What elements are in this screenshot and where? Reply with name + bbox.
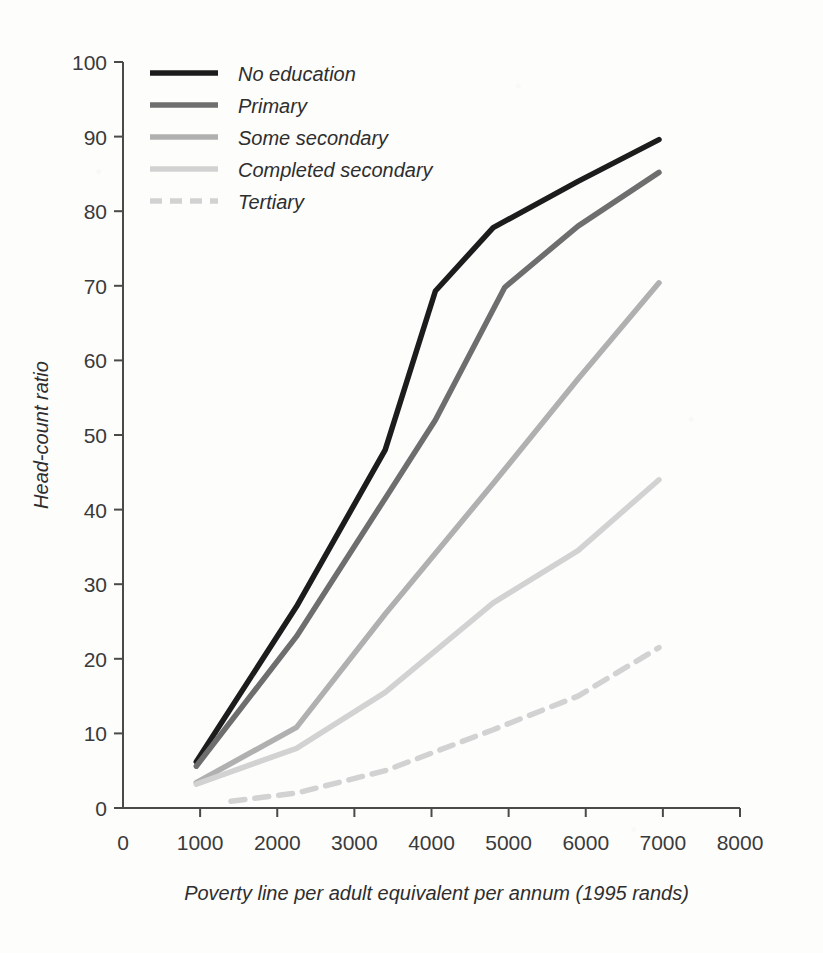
series-line-1 [196,172,659,766]
x-tick-label: 7000 [640,831,687,854]
series-line-4 [231,648,659,802]
y-tick-label: 80 [84,200,107,223]
legend-label-3: Completed secondary [238,159,434,181]
y-tick-label: 60 [84,349,107,372]
y-tick-label: 10 [84,722,107,745]
legend-label-1: Primary [238,95,308,117]
x-tick-label: 5000 [485,831,532,854]
x-tick-label: 2000 [254,831,301,854]
y-tick-label: 0 [95,797,107,820]
x-tick-label: 0 [117,831,129,854]
y-tick-label: 40 [84,499,107,522]
chart-legend: No educationPrimarySome secondaryComplet… [150,63,434,213]
legend-label-4: Tertiary [238,191,305,213]
legend-label-2: Some secondary [238,127,389,149]
x-tick-label: 4000 [408,831,455,854]
line-chart: 0102030405060708090100010002000300040005… [0,0,823,953]
chart-figure: 0102030405060708090100010002000300040005… [0,0,823,953]
series-line-3 [196,480,659,784]
y-tick-label: 30 [84,573,107,596]
y-tick-label: 100 [72,51,107,74]
x-axis-title: Poverty line per adult equivalent per an… [184,882,689,904]
x-tick-label: 1000 [177,831,224,854]
axis-titles: Poverty line per adult equivalent per an… [30,361,689,904]
series-line-0 [196,140,659,762]
x-tick-label: 6000 [562,831,609,854]
x-tick-label: 8000 [717,831,764,854]
y-tick-label: 50 [84,424,107,447]
y-tick-label: 20 [84,648,107,671]
y-tick-label: 70 [84,275,107,298]
series-line-2 [196,283,659,783]
series-lines [196,140,659,802]
y-axis-title: Head-count ratio [30,361,52,509]
y-tick-label: 90 [84,126,107,149]
legend-label-0: No education [238,63,356,85]
x-tick-label: 3000 [331,831,378,854]
